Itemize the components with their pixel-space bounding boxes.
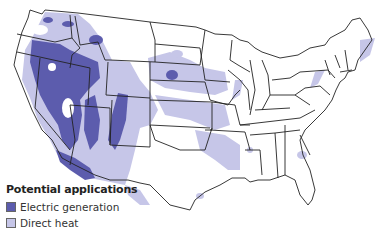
legend-label: Direct heat	[20, 217, 78, 229]
legend-item-direct-heat: Direct heat	[6, 215, 137, 231]
legend: Potential applications Electric generati…	[6, 183, 137, 231]
legend-label: Electric generation	[20, 201, 119, 213]
electric-generation-swatch	[6, 202, 16, 212]
direct-heat-swatch	[6, 218, 16, 228]
legend-title: Potential applications	[6, 183, 137, 196]
geothermal-map-figure: Potential applications Electric generati…	[0, 0, 389, 239]
legend-item-electric-generation: Electric generation	[6, 199, 137, 215]
